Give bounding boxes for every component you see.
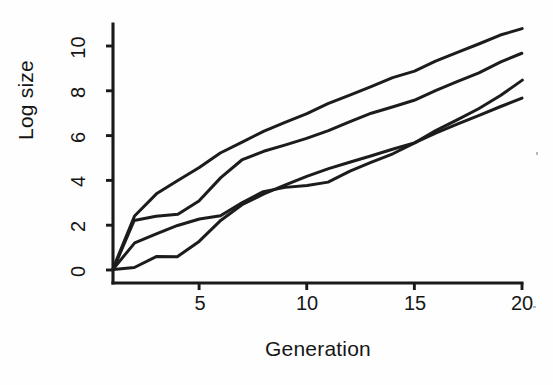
scan-speck [536,152,538,155]
chart-figure: Log size Generation 0 2 4 6 8 10 5 10 15… [0,0,553,385]
series-group [113,29,523,270]
scan-speck [533,306,536,308]
series-line-1 [113,29,523,270]
axis-group [106,24,522,290]
plot-area [0,0,553,385]
series-line-2 [113,53,522,269]
